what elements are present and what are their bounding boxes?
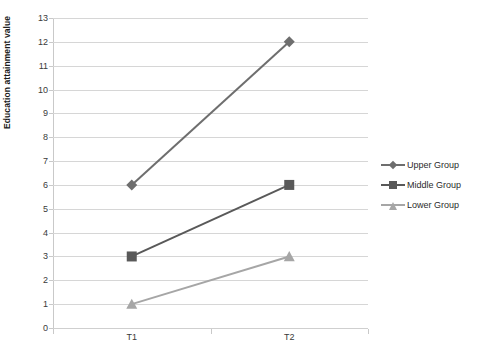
y-axis-tick-mark — [49, 185, 53, 186]
y-axis-tick-label: 13 — [26, 13, 48, 23]
y-axis-tick-label: 3 — [26, 251, 48, 261]
legend-item[interactable]: Upper Group — [381, 155, 479, 175]
gridline — [53, 256, 368, 257]
y-axis-tick-mark — [49, 280, 53, 281]
y-axis-tick-mark — [49, 233, 53, 234]
gridline — [53, 209, 368, 210]
gridline — [53, 90, 368, 91]
y-axis-tick-mark — [49, 66, 53, 67]
y-axis-tick-label: 11 — [26, 61, 48, 71]
gridline — [53, 233, 368, 234]
x-axis-tick-mark — [368, 329, 369, 334]
y-axis-tick-label: 6 — [26, 180, 48, 190]
y-axis-tick-mark — [49, 113, 53, 114]
x-axis-tick-label: T1 — [126, 332, 137, 342]
y-axis-tick-mark — [49, 256, 53, 257]
legend-item[interactable]: Middle Group — [381, 175, 479, 195]
line-chart: Education attainment value 0123456789101… — [0, 0, 481, 363]
y-axis-tick-label: 9 — [26, 108, 48, 118]
y-axis-tick-labels: 012345678910111213 — [26, 0, 48, 363]
y-axis-tick-label: 8 — [26, 132, 48, 142]
gridline — [53, 113, 368, 114]
y-axis-tick-mark — [49, 18, 53, 19]
legend-label: Lower Group — [405, 200, 459, 210]
y-axis-tick-mark — [49, 161, 53, 162]
y-axis-tick-mark — [49, 42, 53, 43]
x-axis-tick-label: T2 — [284, 332, 295, 342]
y-axis-title: Education attainment value — [2, 0, 12, 129]
plot-area — [53, 18, 368, 328]
gridline — [53, 304, 368, 305]
gridline — [53, 18, 368, 19]
legend-marker — [389, 161, 397, 169]
y-axis-tick-label: 4 — [26, 228, 48, 238]
gridline — [53, 66, 368, 67]
legend-symbol-triangle-icon — [381, 198, 405, 212]
legend-symbol-square-icon — [381, 178, 405, 192]
y-axis-tick-label: 2 — [26, 275, 48, 285]
y-axis-tick-mark — [49, 90, 53, 91]
legend-symbol-diamond-icon — [381, 158, 405, 172]
legend-item[interactable]: Lower Group — [381, 195, 479, 215]
x-axis-tick-mark — [211, 329, 212, 334]
x-axis-tick-labels: T1T2 — [53, 332, 368, 352]
legend-marker — [389, 181, 397, 189]
legend-label: Middle Group — [405, 180, 461, 190]
legend: Upper GroupMiddle GroupLower Group — [381, 155, 479, 215]
y-axis-tick-label: 7 — [26, 156, 48, 166]
y-axis-tick-label: 10 — [26, 85, 48, 95]
y-axis-tick-label: 1 — [26, 299, 48, 309]
y-axis-tick-mark — [49, 304, 53, 305]
gridline — [53, 280, 368, 281]
y-axis-tick-label: 5 — [26, 204, 48, 214]
y-axis-tick-mark — [49, 137, 53, 138]
gridline — [53, 137, 368, 138]
y-axis-tick-label: 0 — [26, 323, 48, 333]
legend-marker — [389, 202, 397, 210]
y-axis-tick-label: 12 — [26, 37, 48, 47]
y-axis-tick-mark — [49, 209, 53, 210]
gridline — [53, 161, 368, 162]
gridline — [53, 42, 368, 43]
legend-label: Upper Group — [405, 160, 459, 170]
gridline — [53, 185, 368, 186]
x-axis-tick-mark — [53, 329, 54, 334]
